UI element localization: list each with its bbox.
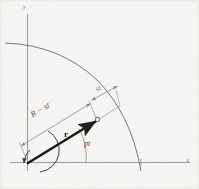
angle-label-pt: pt <box>84 140 90 148</box>
margin-mark: · <box>174 96 176 102</box>
y-axis-label: y <box>23 4 26 11</box>
x-axis-label: x <box>186 157 189 164</box>
scan-grain <box>0 0 199 189</box>
vector-label-r: r <box>64 130 68 139</box>
figure-canvas: y x R − st st pt r · <box>0 0 199 189</box>
vector-diagram-svg <box>0 0 199 189</box>
